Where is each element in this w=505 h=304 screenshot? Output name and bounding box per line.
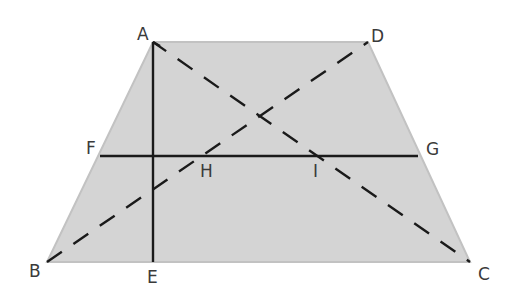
trapezoid-abcd xyxy=(47,42,470,262)
label-g: G xyxy=(426,139,439,159)
label-c: C xyxy=(478,264,490,284)
label-a: A xyxy=(137,24,149,44)
label-e: E xyxy=(147,267,158,287)
trapezoid-diagram: A D C B E F G H I xyxy=(0,0,505,304)
label-h: H xyxy=(200,161,213,181)
label-i: I xyxy=(313,161,318,181)
label-d: D xyxy=(371,26,384,46)
label-f: F xyxy=(86,138,96,158)
label-b: B xyxy=(29,261,41,281)
